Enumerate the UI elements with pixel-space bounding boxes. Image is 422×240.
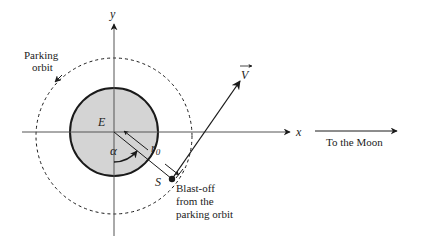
velocity-label: V bbox=[241, 68, 250, 82]
blast-off-label-2: from the bbox=[176, 195, 214, 207]
parking-orbit-label-1: Parking bbox=[24, 49, 59, 61]
s-point-label: S bbox=[155, 175, 161, 189]
to-moon-label: To the Moon bbox=[326, 136, 383, 148]
alpha-label: α bbox=[110, 143, 118, 158]
y-axis-label: y bbox=[109, 7, 116, 21]
velocity-vector bbox=[172, 81, 240, 179]
blast-off-label-1: Blast-off bbox=[176, 182, 215, 194]
r0-dimension-arrow-out bbox=[165, 164, 179, 175]
x-axis-label: x bbox=[295, 125, 302, 139]
r0-label-sub: 0 bbox=[156, 147, 161, 157]
parking-orbit-label-2: orbit bbox=[32, 61, 53, 73]
blast-off-label-3: parking orbit bbox=[176, 208, 233, 220]
earth-label: E bbox=[97, 115, 106, 129]
orbit-diagram: y x Parking orbit E α r0 S V Blast-off f… bbox=[0, 0, 422, 240]
blast-off-point bbox=[169, 176, 175, 182]
